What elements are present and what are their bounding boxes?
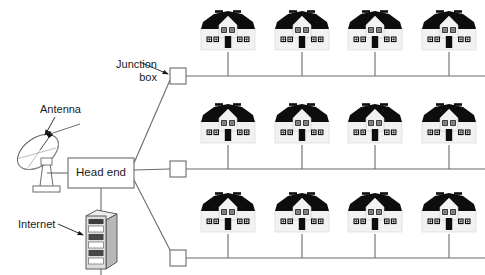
- label-junction-box-line1: Junction: [95, 58, 157, 71]
- feeder-lines: [134, 80, 170, 250]
- label-junction-box-line2: box: [95, 71, 157, 84]
- internet-server-icon: [86, 188, 117, 275]
- drop-lines-top: [228, 52, 449, 76]
- feeder-line-top: [134, 80, 170, 163]
- house-3-3: [348, 192, 402, 232]
- house-3-1: [201, 192, 255, 232]
- house-1-1: [201, 10, 255, 50]
- row-top: [186, 10, 485, 76]
- house-2-4: [422, 103, 476, 143]
- antenna-neck: [41, 158, 52, 165]
- junction-box-top[interactable]: [170, 68, 186, 84]
- junction-box-bottom[interactable]: [170, 250, 186, 266]
- house-2-1: [201, 103, 255, 143]
- antenna-base: [33, 186, 60, 192]
- house-1-4: [422, 10, 476, 50]
- label-antenna: Antenna: [40, 103, 81, 116]
- drop-lines-middle: [228, 145, 449, 169]
- house-1-3: [348, 10, 402, 50]
- junction-box-middle[interactable]: [170, 161, 186, 177]
- feeder-line-middle: [134, 169, 170, 170]
- row-middle: [186, 103, 485, 169]
- label-internet: Internet: [18, 218, 55, 231]
- feeder-line-bottom: [134, 180, 170, 250]
- pointer-line-internet: [58, 224, 83, 235]
- antenna-signal-ray: [50, 124, 80, 134]
- house-2-3: [348, 103, 402, 143]
- server-side-face: [106, 214, 117, 269]
- house-1-2: [275, 10, 329, 50]
- label-junction-box: Junction box: [95, 58, 157, 84]
- network-diagram: [0, 0, 485, 275]
- house-2-2: [275, 103, 329, 143]
- label-head-end: Head end: [70, 166, 132, 179]
- house-3-4: [422, 192, 476, 232]
- row-bottom: [186, 192, 485, 258]
- house-3-2: [275, 192, 329, 232]
- drop-lines-bottom: [228, 234, 449, 258]
- diagram-canvas: Junction box Antenna Internet Head end: [0, 0, 485, 275]
- junction-boxes: [170, 68, 186, 266]
